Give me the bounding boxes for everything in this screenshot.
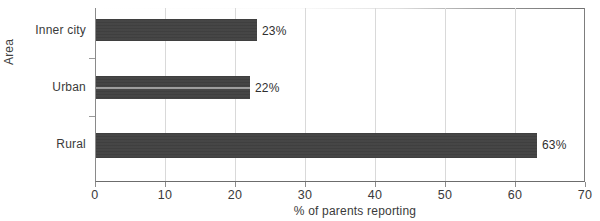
x-axis-tick-30 xyxy=(305,182,306,187)
x-axis-tick-label-20: 20 xyxy=(215,188,255,202)
x-axis-tick-50 xyxy=(445,182,446,187)
plot-top-border xyxy=(96,8,584,9)
bar-urban xyxy=(96,76,250,99)
x-axis-title: % of parents reporting xyxy=(0,204,600,218)
y-axis-tick-label-inner-city: Inner city xyxy=(0,23,86,37)
bar-inner-city xyxy=(96,19,257,41)
x-axis-tick-0 xyxy=(95,182,96,187)
x-axis-tick-label-40: 40 xyxy=(355,188,395,202)
y-axis-tick-label-urban: Urban xyxy=(0,80,86,94)
x-axis-tick-label-60: 60 xyxy=(495,188,535,202)
plot-area xyxy=(95,8,585,182)
x-axis-tick-label-70: 70 xyxy=(565,188,600,202)
x-axis-tick-label-50: 50 xyxy=(425,188,465,202)
x-axis-tick-70 xyxy=(585,182,586,187)
x-axis-tick-label-0: 0 xyxy=(75,188,115,202)
bar-value-urban: 22% xyxy=(255,81,280,95)
x-axis-title-text: % of parents reporting xyxy=(294,204,416,218)
x-axis-tick-10 xyxy=(165,182,166,187)
x-axis-tick-20 xyxy=(235,182,236,187)
x-axis-tick-60 xyxy=(515,182,516,187)
bar-value-rural: 63% xyxy=(542,138,567,152)
bar-chart: Area Inner city Urban Rural 23% 22% 63% … xyxy=(0,0,600,221)
x-axis-tick-label-10: 10 xyxy=(145,188,185,202)
bar-rural xyxy=(96,133,537,158)
y-axis-tick-label-rural: Rural xyxy=(0,137,86,151)
bar-value-inner-city: 23% xyxy=(262,24,287,38)
x-axis-tick-40 xyxy=(375,182,376,187)
x-axis-tick-label-30: 30 xyxy=(285,188,325,202)
